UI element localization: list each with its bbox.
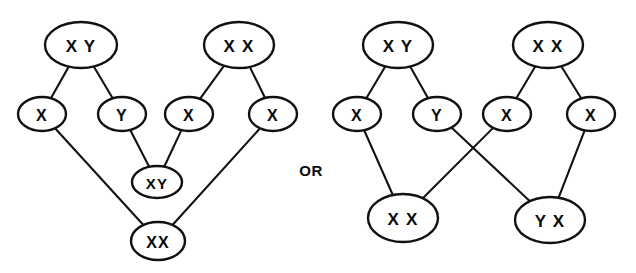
right-pedigree-edge-xy-to-y — [410, 67, 428, 99]
or-connector-label: OR — [299, 162, 323, 179]
left-pedigree-edge-xx-to-x3 — [250, 67, 265, 98]
node-label-l-mid-x1: X — [36, 107, 48, 124]
node-label-l-mid-x2: X — [183, 107, 195, 124]
left-pedigree-edge-xy-to-x1 — [51, 67, 69, 99]
node-label-r-mid-x2: X — [501, 107, 513, 124]
right-pedigree-edge-xx-to-x3 — [561, 66, 581, 98]
node-label-r-mid-x3: X — [585, 107, 597, 124]
node-l-top-xx[interactable]: X X — [204, 22, 274, 68]
node-l-mid-x3[interactable]: X — [249, 97, 297, 131]
node-label-r-bot-yx: Y X — [535, 212, 566, 231]
right-pedigree-edge-x3-to-yx — [559, 130, 585, 197]
node-label-r-mid-x1: X — [351, 107, 363, 124]
left-pedigree-edge-x2-to-xy — [164, 130, 181, 167]
node-label-r-mid-y: Y — [431, 107, 443, 124]
diagram-root: X YX XXYXXXYXXX YX XXYXXX XY X OR — [0, 0, 636, 273]
node-r-top-xy[interactable]: X Y — [363, 22, 433, 68]
nodes-layer: X YX XXYXXXYXXX YX XXYXXX XY X — [18, 22, 615, 260]
node-l-top-xy[interactable]: X Y — [45, 22, 117, 68]
left-pedigree-edge-x1-to-xx — [55, 128, 143, 225]
node-label-l-top-xx: X X — [223, 37, 254, 56]
node-r-bot-yx[interactable]: Y X — [515, 197, 585, 243]
node-r-mid-y[interactable]: Y — [413, 97, 461, 131]
node-label-r-top-xy: X Y — [383, 37, 414, 56]
left-pedigree-edge-xy-to-y — [94, 67, 113, 99]
node-label-l-top-xy: X Y — [66, 37, 97, 56]
right-pedigree-edge-y-to-yx-crossing — [451, 128, 529, 202]
right-pedigree-edge-x1-to-xx — [364, 130, 393, 195]
right-pedigree-edge-x2-to-xx-crossing — [423, 128, 493, 198]
node-label-l-mid-y: Y — [116, 107, 128, 124]
node-r-mid-x2[interactable]: X — [483, 97, 531, 131]
node-l-mid-x2[interactable]: X — [165, 97, 213, 131]
node-label-l-low-xy: XY — [146, 175, 168, 192]
left-pedigree-edge-x3-to-xx — [173, 128, 261, 225]
node-r-mid-x3[interactable]: X — [567, 97, 615, 131]
node-l-mid-x1[interactable]: X — [18, 97, 66, 131]
node-l-mid-y[interactable]: Y — [98, 97, 146, 131]
node-r-mid-x1[interactable]: X — [333, 97, 381, 131]
right-pedigree-edge-xx-to-x2 — [516, 66, 535, 98]
node-r-top-xx[interactable]: X X — [513, 22, 583, 68]
node-r-bot-xx[interactable]: X X — [368, 194, 438, 242]
node-l-low-xy[interactable]: XY — [132, 166, 182, 198]
edges-layer — [51, 66, 585, 225]
node-label-l-mid-x3: X — [267, 107, 279, 124]
left-pedigree-edge-xx-to-x2 — [200, 66, 224, 99]
node-label-r-bot-xx: X X — [387, 210, 418, 229]
right-pedigree-edge-xy-to-x1 — [366, 66, 385, 98]
left-pedigree-edge-y-to-xy — [130, 130, 149, 167]
chromosome-inheritance-diagram: X YX XXYXXXYXXX YX XXYXXX XY X OR — [0, 0, 636, 273]
node-label-l-bot-xx: XX — [146, 234, 170, 251]
node-l-bot-xx[interactable]: XX — [131, 222, 185, 260]
node-label-r-top-xx: X X — [532, 37, 563, 56]
